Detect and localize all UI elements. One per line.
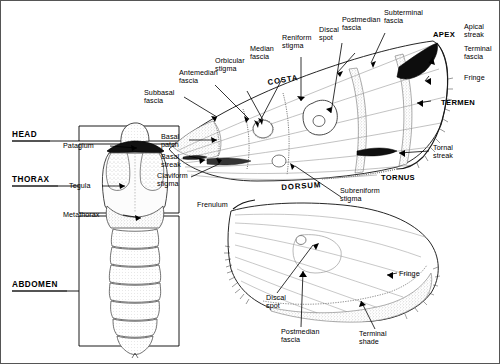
diagram-canvas: HEAD THORAX ABDOMEN Patagium Tegula Meta… [0,0,500,364]
label-patagium: Patagium [63,142,94,150]
label-fringe-forewing: Fringe [464,74,485,82]
label-reniform-stigma: Reniformstigma [282,34,312,50]
label-frenulum: Frenulum [197,201,228,209]
margin-label-tornus: TORNUS [381,174,415,182]
label-subbasal-fascia: Subbasalfascia [144,89,174,105]
label-median-fascia: Medianfascia [250,45,274,61]
label-basal-patch: Basalpatch [161,133,179,149]
label-subreniform-stigma: Subreniformstigma [340,187,380,203]
region-label-abdomen: ABDOMEN [12,281,58,289]
label-terminal-shade: Terminalshade [359,330,387,346]
label-claviform-stigma: Claviformstigma [157,172,188,188]
label-terminal-fascia: Terminalfascia [464,45,492,61]
region-label-underlines [12,141,67,291]
label-subterminal-fascia: Subterminalfascia [384,9,423,25]
hindwing [224,200,440,322]
label-fringe-hindwing: Fringe [399,270,420,278]
margin-label-apex: APEX [433,31,455,39]
forewing [169,41,453,181]
label-discal-spot-hindwing: Discalspot [266,294,286,310]
region-label-head: HEAD [12,131,37,139]
label-metathorax: Metathorax [63,211,99,219]
label-postmedian-fascia: Postmedianfascia [342,16,380,32]
label-antemedian-fascia: Antemedianfascia [179,69,218,85]
label-tegula: Tegula [69,182,90,190]
label-tornal-streak: Tornalstreak [433,144,453,160]
label-apical-streak: Apicalstreak [464,23,484,39]
margin-label-termen: TERMEN [441,99,475,107]
label-orbicular-stigma: Orbicularstigma [215,57,245,73]
label-basal-streak: Basalstreak [161,153,181,169]
label-postmedian-fascia-hindwing: Postmedianfascia [281,328,319,344]
label-discal-spot-forewing: Discalspot [319,26,339,42]
moth-body [102,123,167,358]
region-label-thorax: THORAX [12,176,50,184]
